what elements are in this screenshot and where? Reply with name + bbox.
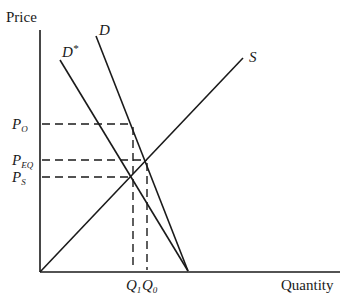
supply-demand-diagram: Price Quantity S D D* PO PEQ PS Q1 Q0 — [0, 0, 353, 303]
price-guides — [42, 124, 147, 270]
quantity-axis-label: Quantity — [281, 277, 334, 293]
demand-star-curve-label: D* — [61, 42, 79, 60]
p-o-label: PO — [11, 116, 28, 134]
demand-curve-label: D — [98, 22, 110, 38]
q1-label: Q1 — [126, 277, 141, 295]
supply-curve-label: S — [249, 49, 257, 65]
q0-label: Q0 — [142, 277, 158, 295]
p-eq-label: PEQ — [11, 152, 34, 170]
demand-curve — [96, 36, 188, 271]
p-s-label: PS — [11, 169, 26, 187]
price-axis-label: Price — [6, 9, 37, 25]
demand-star-curve — [60, 60, 188, 271]
supply-curve — [40, 58, 243, 272]
